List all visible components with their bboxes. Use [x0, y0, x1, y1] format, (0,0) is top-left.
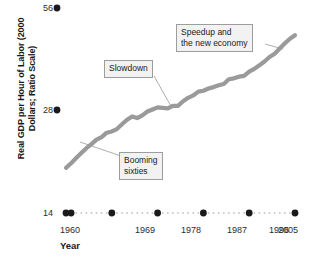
x-tick-dot-minor	[187, 212, 189, 214]
x-tick-dot-minor	[162, 212, 164, 214]
annotation-booming-sixties: Booming sixties	[119, 152, 163, 180]
x-tick-dot-minor	[274, 212, 276, 214]
x-tick-dot-minor	[258, 212, 260, 214]
axis-marker-dots	[63, 210, 299, 217]
x-tick-dot-minor	[141, 212, 143, 214]
x-tick-dot-minor	[90, 212, 92, 214]
x-tick-dot-minor	[136, 212, 138, 214]
x-tick-dot-minor	[263, 212, 265, 214]
x-tick-dot-minor	[182, 212, 184, 214]
x-tick-dot-minor	[85, 212, 87, 214]
x-tick-dot-minor	[233, 212, 235, 214]
annotation-speedup-line-1: Speedup and	[181, 27, 248, 38]
x-tick-dot-minor	[126, 212, 128, 214]
x-tick-dot-major	[108, 210, 115, 217]
x-tick-dot-minor	[238, 212, 240, 214]
annotation-booming-sixties-line-2: sixties	[124, 166, 158, 177]
x-tick-dot-minor	[96, 212, 98, 214]
x-tick-dot-major	[68, 210, 75, 217]
x-tick-dot-minor	[197, 212, 199, 214]
chart-figure: Real GDP per Hour of Labor (2000 Dollars…	[0, 0, 313, 260]
annotation-booming-sixties-line-1: Booming	[124, 155, 158, 166]
x-tick-dot-major	[200, 210, 207, 217]
x-tick-dot-minor	[75, 212, 77, 214]
data-line-real-gdp-per-hour	[66, 35, 295, 168]
x-tick-dot-minor	[213, 212, 215, 214]
x-tick-dot-minor	[218, 212, 220, 214]
x-tick-dot-minor	[289, 212, 291, 214]
annotation-slowdown-line-1: Slowdown	[109, 63, 148, 74]
x-tick-dot-minor	[228, 212, 230, 214]
x-tick-dot-minor	[207, 212, 209, 214]
x-tick-dot-major	[246, 210, 253, 217]
x-tick-dot-minor	[116, 212, 118, 214]
x-tick-dot-minor	[279, 212, 281, 214]
annotation-slowdown: Slowdown	[104, 60, 153, 78]
plot-area	[0, 0, 313, 260]
x-tick-dot-major	[154, 210, 161, 217]
x-tick-dot-minor	[284, 212, 286, 214]
y-tick-dot-56	[54, 5, 61, 12]
x-tick-dot-minor	[131, 212, 133, 214]
x-tick-dot-minor	[146, 212, 148, 214]
x-tick-dot-minor	[101, 212, 103, 214]
x-tick-dot-minor	[172, 212, 174, 214]
x-tick-dot-minor	[177, 212, 179, 214]
x-tick-dot-major	[292, 210, 299, 217]
leader-line-slowdown	[154, 76, 172, 108]
x-tick-dot-minor	[80, 212, 82, 214]
x-tick-dot-minor	[121, 212, 123, 214]
y-tick-dot-28	[54, 107, 61, 114]
x-tick-dot-minor	[106, 212, 108, 214]
x-tick-dot-minor	[167, 212, 169, 214]
x-tick-dot-minor	[253, 212, 255, 214]
x-tick-dot-minor	[243, 212, 245, 214]
x-tick-dot-minor	[152, 212, 154, 214]
annotation-speedup-new-economy: Speedup and the new economy	[176, 24, 253, 52]
annotation-speedup-line-2: the new economy	[181, 38, 248, 49]
x-tick-dot-minor	[269, 212, 271, 214]
x-tick-dot-minor	[223, 212, 225, 214]
x-tick-dot-minor	[192, 212, 194, 214]
